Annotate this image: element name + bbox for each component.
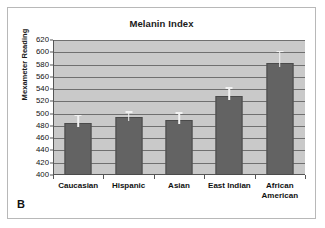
bar-group [204,40,254,175]
x-tick-mark [154,175,155,179]
bar-group [53,40,103,175]
y-tick-label: 460 [36,134,49,142]
bar-group [154,40,204,175]
y-tick-label: 500 [36,110,49,118]
error-bar [77,115,79,128]
error-bar-cap [75,115,82,116]
y-tick-label: 520 [36,97,49,105]
y-tick-label: 540 [36,85,49,93]
error-bar [128,111,130,121]
figure-panel: Melanin Index Mexameter Reading 40042044… [7,7,316,219]
y-tick-label: 420 [36,159,49,167]
error-bar-cap [175,112,182,113]
x-category-label: Hispanic [112,181,145,191]
x-category-label: African American [262,181,298,200]
y-tick-label: 600 [36,48,49,56]
error-bar [229,87,231,100]
bar-group [255,40,305,175]
error-bar-cap [226,87,233,88]
error-bar-cap [125,111,132,112]
error-bar [279,51,281,67]
y-tick-label: 560 [36,73,49,81]
x-tick-mark [204,175,205,179]
y-tick-label: 480 [36,122,49,130]
bar [165,120,192,175]
bar [65,123,92,175]
x-tick-mark [255,175,256,179]
y-tick-label: 620 [36,36,49,44]
x-tick-mark [103,175,104,179]
x-tick-mark [305,175,306,179]
bar-group [103,40,153,175]
panel-letter: B [17,198,25,210]
x-category-label: Caucasian [58,181,98,191]
bar [115,117,142,175]
y-axis-title: Mexameter Reading [20,17,29,113]
error-bar-cap [276,51,283,52]
x-category-label: Asian [168,181,190,191]
y-tick-label: 580 [36,61,49,69]
x-category-label: East Indian [208,181,251,191]
bar [216,96,243,175]
x-tick-mark [53,175,54,179]
y-tick-label: 400 [36,171,49,179]
plot-frame: 400420440460480500520540560580600620 Cau… [53,40,305,175]
bar [266,63,293,175]
y-tick-label: 440 [36,147,49,155]
chart-title: Melanin Index [8,18,315,29]
error-bar [178,112,180,124]
